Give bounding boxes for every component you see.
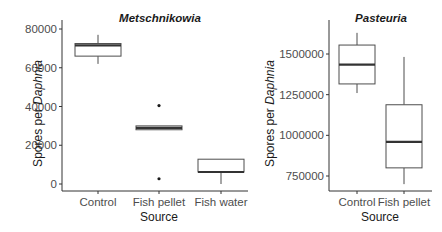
box-fish-pellet	[386, 57, 422, 184]
y-tick-label: 1250000	[279, 89, 324, 101]
x-tick-label: Fish pellet	[133, 196, 186, 208]
box-control	[75, 35, 121, 64]
panel-title: Pasteuria	[355, 12, 407, 24]
y-tick-label: 1500000	[279, 48, 324, 60]
box-fish-pellet	[136, 104, 182, 180]
iqr-box	[198, 159, 244, 172]
x-axis-title: Source	[140, 210, 178, 224]
y-tick-label: 1000000	[279, 129, 324, 141]
panel-pasteuria: Pasteuria750000100000012500001500000Cont…	[263, 12, 432, 224]
iqr-box	[386, 105, 422, 168]
outlier-point	[157, 104, 160, 107]
x-tick-label: Control	[79, 196, 116, 208]
x-tick-label: Fish water	[194, 196, 247, 208]
panel-title: Metschnikowia	[119, 12, 201, 24]
figure: Metschnikowia020000400006000080000Contro…	[0, 0, 442, 232]
y-axis-title: Spores per Daphnia	[263, 60, 277, 167]
outlier-point	[157, 177, 160, 180]
x-axis-title: Source	[361, 210, 399, 224]
box-fish-water	[198, 159, 244, 184]
y-tick-label: 750000	[286, 170, 324, 182]
x-tick-label: Fish pellet	[378, 196, 431, 208]
y-tick-label: 0	[51, 178, 57, 190]
box-control	[339, 33, 375, 93]
y-axis-title: Spores per Daphnia	[31, 60, 45, 167]
y-tick-label: 80000	[25, 23, 57, 35]
panel-metschnikowia: Metschnikowia020000400006000080000Contro…	[25, 12, 248, 224]
x-tick-label: Control	[338, 196, 375, 208]
